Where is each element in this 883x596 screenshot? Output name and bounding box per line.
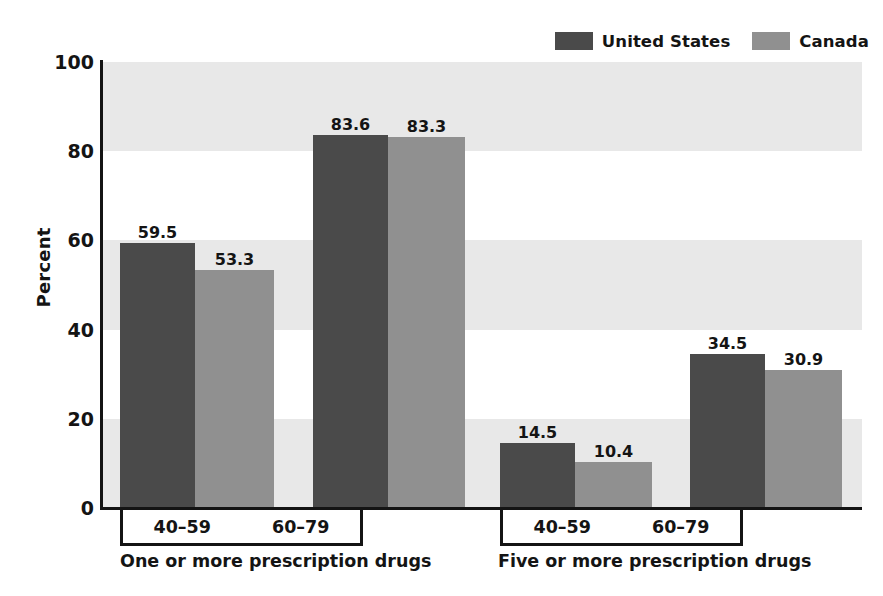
bar-five-or-more-60-79-united-states: [690, 354, 765, 508]
bar-one-or-more-60-79-canada: [388, 137, 465, 509]
bar-label-one-or-more-60-79-united-states: 83.6: [331, 115, 370, 134]
bar-one-or-more-40-59-canada: [195, 270, 274, 508]
legend-swatch-icon-canada: [752, 32, 790, 50]
bar-five-or-more-40-59-united-states: [500, 443, 575, 508]
bar-label-one-or-more-60-79-canada: 83.3: [407, 117, 446, 136]
group-caption-one-or-more: One or more prescription drugs: [120, 551, 363, 571]
legend-entry-united-states: United States: [555, 32, 731, 51]
legend-label-united-states: United States: [602, 32, 731, 51]
legend-entry-canada: Canada: [752, 32, 869, 51]
legend-label-canada: Canada: [799, 32, 869, 51]
bar-label-five-or-more-60-79-united-states: 34.5: [708, 334, 747, 353]
y-tick-80: 80: [8, 140, 94, 162]
y-axis-title: Percent: [33, 208, 54, 328]
x-tick-five-or-more-60-79: 60–79: [622, 510, 741, 543]
plot-area: 59.5 53.3 83.6 83.3 14.5 10.4 34.5 30.9: [103, 62, 862, 508]
bar-five-or-more-40-59-canada: [575, 462, 652, 508]
bar-label-five-or-more-60-79-canada: 30.9: [784, 350, 823, 369]
background-band-60-80: [103, 151, 862, 240]
x-tick-one-or-more-40-59: 40–59: [123, 510, 242, 543]
y-tick-100: 100: [8, 51, 94, 73]
bar-one-or-more-60-79-united-states: [313, 135, 388, 508]
bar-label-five-or-more-40-59-united-states: 14.5: [518, 423, 557, 442]
y-tick-20: 20: [8, 408, 94, 430]
y-tick-0: 0: [8, 497, 94, 519]
bar-label-one-or-more-40-59-united-states: 59.5: [138, 223, 177, 242]
bar-one-or-more-40-59-united-states: [120, 243, 195, 508]
bar-five-or-more-60-79-canada: [765, 370, 842, 508]
group-caption-five-or-more: Five or more prescription drugs: [498, 551, 751, 571]
x-tick-five-or-more-40-59: 40–59: [503, 510, 622, 543]
x-tick-one-or-more-60-79: 60–79: [242, 510, 361, 543]
background-band-80-100: [103, 62, 862, 151]
bar-label-five-or-more-40-59-canada: 10.4: [594, 442, 633, 461]
group-bracket-one-or-more: 40–59 60–79: [120, 510, 363, 546]
group-bracket-five-or-more: 40–59 60–79: [500, 510, 743, 546]
bar-chart: United States Canada 59.5 53.3: [0, 0, 883, 596]
legend-swatch-icon-united-states: [555, 32, 593, 50]
bar-label-one-or-more-40-59-canada: 53.3: [215, 250, 254, 269]
y-axis-line: [100, 60, 103, 510]
chart-legend: United States Canada: [555, 28, 869, 54]
